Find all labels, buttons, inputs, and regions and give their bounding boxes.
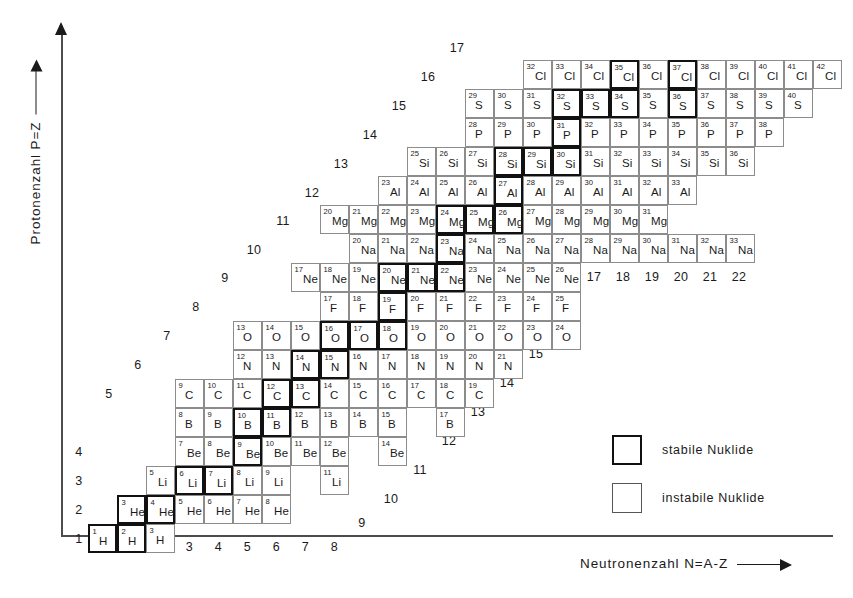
- nuclide-cell-c-18[interactable]: 18C: [436, 379, 465, 408]
- nuclide-cell-o-16[interactable]: 16O: [320, 321, 349, 350]
- nuclide-cell-na-21[interactable]: 21Na: [378, 234, 407, 263]
- nuclide-cell-be-8[interactable]: 8Be: [204, 437, 233, 466]
- nuclide-cell-p-38[interactable]: 38P: [755, 118, 784, 147]
- nuclide-cell-p-31[interactable]: 31P: [552, 118, 581, 147]
- nuclide-cell-na-29[interactable]: 29Na: [610, 234, 639, 263]
- nuclide-cell-o-17[interactable]: 17O: [349, 321, 378, 350]
- nuclide-cell-o-22[interactable]: 22O: [494, 321, 523, 350]
- nuclide-cell-mg-20[interactable]: 20Mg: [320, 205, 349, 234]
- nuclide-cell-si-35[interactable]: 35Si: [697, 147, 726, 176]
- nuclide-cell-na-27[interactable]: 27Na: [552, 234, 581, 263]
- nuclide-cell-si-30[interactable]: 30Si: [552, 147, 581, 176]
- nuclide-cell-cl-32[interactable]: 32Cl: [523, 60, 552, 89]
- nuclide-cell-f-19[interactable]: 19F: [378, 292, 407, 321]
- nuclide-cell-n-13[interactable]: 13N: [262, 350, 291, 379]
- nuclide-cell-n-21[interactable]: 21N: [494, 350, 523, 379]
- nuclide-cell-b-11[interactable]: 11B: [262, 408, 291, 437]
- nuclide-cell-na-23[interactable]: 23Na: [436, 234, 465, 263]
- nuclide-cell-c-16[interactable]: 16C: [378, 379, 407, 408]
- nuclide-cell-al-30[interactable]: 30Al: [581, 176, 610, 205]
- nuclide-cell-li-8[interactable]: 8Li: [233, 466, 262, 495]
- nuclide-cell-na-25[interactable]: 25Na: [494, 234, 523, 263]
- nuclide-cell-cl-40[interactable]: 40Cl: [755, 60, 784, 89]
- nuclide-cell-f-17[interactable]: 17F: [320, 292, 349, 321]
- nuclide-cell-p-32[interactable]: 32P: [581, 118, 610, 147]
- nuclide-cell-o-13[interactable]: 13O: [233, 321, 262, 350]
- nuclide-cell-na-32[interactable]: 32Na: [697, 234, 726, 263]
- nuclide-cell-h-3[interactable]: 3H: [146, 524, 175, 553]
- nuclide-cell-ne-21[interactable]: 21Ne: [407, 263, 436, 292]
- nuclide-cell-p-37[interactable]: 37P: [726, 118, 755, 147]
- nuclide-cell-c-12[interactable]: 12C: [262, 379, 291, 408]
- nuclide-cell-b-17[interactable]: 17B: [436, 408, 465, 437]
- nuclide-cell-f-21[interactable]: 21F: [436, 292, 465, 321]
- nuclide-cell-o-20[interactable]: 20O: [436, 321, 465, 350]
- nuclide-cell-cl-34[interactable]: 34Cl: [581, 60, 610, 89]
- nuclide-cell-f-25[interactable]: 25F: [552, 292, 581, 321]
- nuclide-cell-o-23[interactable]: 23O: [523, 321, 552, 350]
- nuclide-cell-c-14[interactable]: 14C: [320, 379, 349, 408]
- nuclide-cell-n-15[interactable]: 15N: [320, 350, 349, 379]
- nuclide-cell-he-3[interactable]: 3He: [117, 495, 146, 524]
- nuclide-cell-c-17[interactable]: 17C: [407, 379, 436, 408]
- nuclide-cell-be-9[interactable]: 9Be: [233, 437, 262, 466]
- nuclide-cell-mg-21[interactable]: 21Mg: [349, 205, 378, 234]
- nuclide-cell-al-27[interactable]: 27Al: [494, 176, 523, 205]
- nuclide-cell-b-10[interactable]: 10B: [233, 408, 262, 437]
- nuclide-cell-c-10[interactable]: 10C: [204, 379, 233, 408]
- nuclide-cell-al-33[interactable]: 33Al: [668, 176, 697, 205]
- nuclide-cell-b-15[interactable]: 15B: [378, 408, 407, 437]
- nuclide-cell-be-12[interactable]: 12Be: [320, 437, 349, 466]
- nuclide-cell-he-7[interactable]: 7He: [233, 495, 262, 524]
- nuclide-cell-si-29[interactable]: 29Si: [523, 147, 552, 176]
- nuclide-cell-cl-39[interactable]: 39Cl: [726, 60, 755, 89]
- nuclide-cell-cl-38[interactable]: 38Cl: [697, 60, 726, 89]
- nuclide-cell-b-9[interactable]: 9B: [204, 408, 233, 437]
- nuclide-cell-cl-35[interactable]: 35Cl: [610, 60, 639, 89]
- nuclide-cell-b-8[interactable]: 8B: [175, 408, 204, 437]
- nuclide-cell-al-24[interactable]: 24Al: [407, 176, 436, 205]
- nuclide-cell-f-24[interactable]: 24F: [523, 292, 552, 321]
- nuclide-cell-s-30[interactable]: 30S: [494, 89, 523, 118]
- nuclide-cell-mg-28[interactable]: 28Mg: [552, 205, 581, 234]
- nuclide-cell-b-14[interactable]: 14B: [349, 408, 378, 437]
- nuclide-cell-li-9[interactable]: 9Li: [262, 466, 291, 495]
- nuclide-cell-mg-25[interactable]: 25Mg: [465, 205, 494, 234]
- nuclide-cell-s-36[interactable]: 36S: [668, 89, 697, 118]
- nuclide-cell-al-28[interactable]: 28Al: [523, 176, 552, 205]
- nuclide-cell-ne-24[interactable]: 24Ne: [494, 263, 523, 292]
- nuclide-cell-mg-23[interactable]: 23Mg: [407, 205, 436, 234]
- nuclide-cell-mg-31[interactable]: 31Mg: [639, 205, 668, 234]
- nuclide-cell-n-12[interactable]: 12N: [233, 350, 262, 379]
- nuclide-cell-p-35[interactable]: 35P: [668, 118, 697, 147]
- nuclide-cell-al-26[interactable]: 26Al: [465, 176, 494, 205]
- nuclide-cell-n-20[interactable]: 20N: [465, 350, 494, 379]
- nuclide-cell-f-18[interactable]: 18F: [349, 292, 378, 321]
- nuclide-cell-p-28[interactable]: 28P: [465, 118, 494, 147]
- nuclide-cell-ne-18[interactable]: 18Ne: [320, 263, 349, 292]
- nuclide-cell-ne-19[interactable]: 19Ne: [349, 263, 378, 292]
- nuclide-cell-s-29[interactable]: 29S: [465, 89, 494, 118]
- nuclide-cell-be-10[interactable]: 10Be: [262, 437, 291, 466]
- nuclide-cell-si-25[interactable]: 25Si: [407, 147, 436, 176]
- nuclide-cell-al-31[interactable]: 31Al: [610, 176, 639, 205]
- nuclide-cell-na-31[interactable]: 31Na: [668, 234, 697, 263]
- nuclide-cell-si-31[interactable]: 31Si: [581, 147, 610, 176]
- nuclide-cell-na-30[interactable]: 30Na: [639, 234, 668, 263]
- nuclide-cell-b-13[interactable]: 13B: [320, 408, 349, 437]
- nuclide-cell-s-33[interactable]: 33S: [581, 89, 610, 118]
- nuclide-cell-be-7[interactable]: 7Be: [175, 437, 204, 466]
- nuclide-cell-si-33[interactable]: 33Si: [639, 147, 668, 176]
- nuclide-cell-si-34[interactable]: 34Si: [668, 147, 697, 176]
- nuclide-cell-ne-17[interactable]: 17Ne: [291, 263, 320, 292]
- nuclide-cell-cl-37[interactable]: 37Cl: [668, 60, 697, 89]
- nuclide-cell-na-28[interactable]: 28Na: [581, 234, 610, 263]
- nuclide-cell-he-8[interactable]: 8He: [262, 495, 291, 524]
- nuclide-cell-li-5[interactable]: 5Li: [146, 466, 175, 495]
- nuclide-cell-h-2[interactable]: 2H: [117, 524, 146, 553]
- nuclide-cell-na-22[interactable]: 22Na: [407, 234, 436, 263]
- nuclide-cell-b-12[interactable]: 12B: [291, 408, 320, 437]
- nuclide-cell-p-33[interactable]: 33P: [610, 118, 639, 147]
- nuclide-cell-c-15[interactable]: 15C: [349, 379, 378, 408]
- nuclide-cell-mg-22[interactable]: 22Mg: [378, 205, 407, 234]
